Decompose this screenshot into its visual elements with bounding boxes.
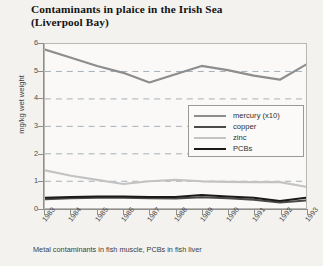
chart-title-line1: Contaminants in plaice in the Irish Sea [31, 3, 223, 15]
chart-figure: Contaminants in plaice in the Irish Sea … [0, 0, 323, 266]
legend-swatch-icon [194, 115, 226, 117]
chart-title: Contaminants in plaice in the Irish Sea … [31, 3, 301, 29]
y-axis-title: mg/kg wet weight [17, 45, 26, 165]
chart-legend: mercury (x10)copperzincPCBs [188, 105, 304, 157]
chart-title-line2: (Liverpool Bay) [31, 16, 301, 29]
legend-label: mercury (x10) [233, 111, 280, 120]
series-line-mercury-x10- [45, 49, 306, 82]
series-line-zinc [45, 170, 306, 186]
y-axis-tick-label: 1 [18, 176, 38, 185]
legend-swatch-icon [194, 148, 226, 150]
legend-label: zinc [233, 133, 247, 142]
y-axis-tick-label: 0 [18, 204, 38, 213]
legend-item[interactable]: PCBs [189, 143, 303, 154]
legend-swatch-icon [194, 137, 226, 139]
chart-footnote: Metal contaminants in fish muscle, PCBs … [33, 245, 202, 254]
legend-label: PCBs [233, 144, 252, 153]
legend-swatch-icon [194, 126, 226, 128]
legend-item[interactable]: copper [189, 121, 303, 132]
legend-item[interactable]: zinc [189, 132, 303, 143]
legend-item[interactable]: mercury (x10) [189, 110, 303, 121]
legend-label: copper [233, 122, 256, 131]
